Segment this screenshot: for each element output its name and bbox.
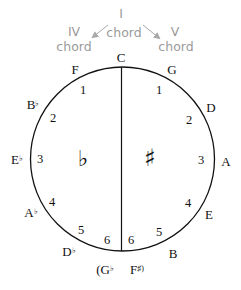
sharp-count: 5 bbox=[156, 225, 162, 239]
v-chord-label-line2: chord bbox=[158, 39, 193, 54]
key-label: F bbox=[71, 62, 78, 77]
sharp-symbol-icon: ♯ bbox=[144, 144, 156, 172]
key-label: G bbox=[167, 62, 176, 77]
key-label: B♭ bbox=[27, 97, 40, 112]
key-label-c: C bbox=[117, 50, 126, 65]
arrow-to-v-icon bbox=[143, 25, 159, 38]
key-label: E♭ bbox=[11, 152, 23, 167]
key-label: B bbox=[169, 246, 178, 261]
circle-of-fifths-diagram: I chord IV chord V chord C ♭ ♯ F B♭ E♭ A… bbox=[0, 0, 241, 290]
flat-count: 6 bbox=[104, 233, 110, 247]
iv-chord-label-line1: IV bbox=[68, 24, 81, 39]
sharp-count: 4 bbox=[185, 196, 192, 210]
fifths-circle bbox=[31, 67, 215, 251]
flat-symbol-icon: ♭ bbox=[78, 146, 88, 171]
sharp-count: 6 bbox=[128, 233, 134, 247]
key-label: E bbox=[205, 207, 213, 222]
sharp-counts: 1 2 3 4 5 6 bbox=[128, 83, 204, 247]
sharp-count: 2 bbox=[186, 113, 192, 127]
key-label: (G♭ bbox=[96, 262, 114, 277]
key-label: D bbox=[206, 100, 215, 115]
key-label: A bbox=[221, 154, 231, 169]
flat-count: 5 bbox=[78, 223, 84, 237]
iv-chord-label-line2: chord bbox=[56, 39, 91, 54]
key-label: D♭ bbox=[62, 244, 75, 259]
chord-annotations: I chord IV chord V chord bbox=[56, 6, 193, 54]
v-chord-label-line1: V bbox=[171, 24, 180, 39]
sharp-count: 3 bbox=[198, 153, 204, 167]
i-chord-label-line1: I bbox=[119, 6, 123, 21]
flat-count: 1 bbox=[80, 83, 86, 97]
flat-count: 2 bbox=[50, 111, 56, 125]
key-label: A♭ bbox=[24, 205, 37, 220]
key-label: F♯) bbox=[130, 262, 144, 277]
flat-keys: F B♭ E♭ A♭ D♭ (G♭ bbox=[11, 62, 114, 277]
flat-counts: 1 2 3 4 5 6 bbox=[37, 83, 110, 247]
flat-count: 4 bbox=[49, 195, 56, 209]
i-chord-label-line2: chord bbox=[106, 25, 141, 40]
sharp-count: 1 bbox=[156, 83, 162, 97]
flat-count: 3 bbox=[37, 152, 43, 166]
